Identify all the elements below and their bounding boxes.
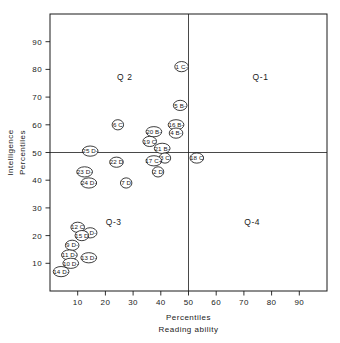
x-axis-title-percentiles: Percentiles	[166, 313, 211, 322]
data-point-label: 5 B-	[174, 102, 186, 109]
x-tick-label-30: 30	[128, 298, 138, 307]
data-point-17c[interactable]: 17 C+	[145, 156, 162, 166]
quadrant-label-q2: Q 2	[117, 72, 133, 82]
y-tick-label-30: 30	[32, 204, 42, 213]
data-point-6c[interactable]: 6 C	[112, 120, 123, 130]
quadrant-label-q4: Q-4	[244, 217, 260, 227]
quadrant-label-q1: Q-1	[253, 72, 269, 82]
data-point-25d[interactable]: 25 D-	[82, 146, 98, 156]
data-point-label: 25 D-	[82, 147, 98, 154]
data-point-label: 9 D-	[66, 241, 78, 248]
data-point-15d[interactable]: 15 D	[75, 231, 89, 241]
data-point-1c[interactable]: 1 C-	[175, 62, 189, 72]
data-point-label: 14 D-	[53, 268, 69, 275]
y-tick-label-40: 40	[32, 176, 42, 185]
y-tick-label-10: 10	[32, 259, 42, 268]
data-point-label: 16 B-	[168, 121, 183, 128]
data-point-label: 24 D-	[81, 179, 97, 186]
y-tick-label-20: 20	[32, 232, 42, 241]
x-tick-label-70: 70	[239, 298, 249, 307]
data-point-label: 12 C	[71, 223, 85, 230]
y-axis-title-intelligence: Intelligence	[6, 129, 15, 176]
data-point-14d[interactable]: 14 D-	[53, 267, 69, 277]
data-point-4b[interactable]: 4 B-	[169, 128, 183, 138]
scatter-plot-svg: 102030405060708090102030405060708090Perc…	[0, 0, 340, 343]
data-point-label: 6 C	[113, 121, 123, 128]
quadrant-label-q3: Q-3	[106, 217, 122, 227]
x-tick-label-50: 50	[184, 298, 194, 307]
data-point-18c[interactable]: 18 C	[190, 153, 204, 163]
data-point-label: 4 B-	[170, 129, 182, 136]
scatter-chart-figure: 102030405060708090102030405060708090Perc…	[0, 0, 340, 343]
data-point-label: 23 D-	[77, 168, 93, 175]
data-point-label: 1 C-	[176, 63, 188, 70]
data-point-5b[interactable]: 5 B-	[173, 100, 187, 110]
data-point-label: 21 B-	[155, 145, 170, 152]
x-tick-label-20: 20	[101, 298, 111, 307]
data-point-23d[interactable]: 23 D-	[77, 167, 93, 177]
data-point-22d[interactable]: 22 D	[110, 157, 124, 167]
data-point-label: 22 D	[110, 158, 124, 165]
x-tick-label-60: 60	[211, 298, 221, 307]
y-tick-label-90: 90	[32, 38, 42, 47]
data-point-label: 20 B-	[146, 128, 161, 135]
data-point-label: 2 D	[153, 168, 163, 175]
data-point-20b[interactable]: 20 B-	[146, 127, 162, 137]
y-tick-label-50: 50	[32, 149, 42, 158]
data-point-13d[interactable]: 13 D-	[81, 253, 97, 263]
data-point-label: 10 D-	[63, 260, 79, 267]
data-point-label: 18 C	[190, 154, 204, 161]
x-tick-label-80: 80	[267, 298, 277, 307]
data-point-7d[interactable]: 7 D	[120, 178, 131, 188]
data-point-label: 13 D-	[81, 254, 97, 261]
y-tick-label-70: 70	[32, 93, 42, 102]
y-tick-label-60: 60	[32, 121, 42, 130]
data-point-label: 15 D	[75, 232, 89, 239]
data-point-2d[interactable]: 2 D	[152, 167, 163, 177]
x-tick-label-10: 10	[73, 298, 83, 307]
data-point-21b[interactable]: 21 B-	[154, 143, 170, 153]
data-point-label: 11 D-	[62, 251, 77, 258]
data-point-label: 7 D	[121, 179, 131, 186]
data-point-9d[interactable]: 9 D-	[65, 240, 79, 250]
data-point-24d[interactable]: 24 D-	[81, 178, 97, 188]
y-tick-label-80: 80	[32, 65, 42, 74]
x-tick-label-40: 40	[156, 298, 166, 307]
x-tick-label-90: 90	[294, 298, 304, 307]
x-axis-title-reading-ability: Reading ability	[159, 325, 219, 334]
data-point-label: 17 C+	[145, 157, 162, 164]
y-axis-title-percentiles: Percentiles	[18, 130, 27, 175]
